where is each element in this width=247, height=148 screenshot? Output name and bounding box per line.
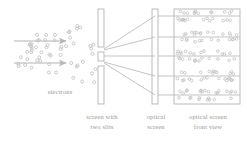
fringe-dot <box>203 76 206 79</box>
electron-dot <box>26 50 29 53</box>
fringe-dot <box>208 19 211 22</box>
electron-dot <box>65 45 68 48</box>
fringe-dot <box>183 12 186 15</box>
fringe-dot <box>189 52 192 55</box>
fringe-dot <box>198 60 201 63</box>
electron-dot <box>92 43 95 46</box>
fringe-dot <box>182 92 185 95</box>
electron-dot <box>81 60 84 63</box>
fringe-dot <box>210 38 213 41</box>
fringe-dot <box>184 50 187 53</box>
fringe-dot <box>190 31 193 34</box>
fringe-dot <box>212 31 215 34</box>
ray-5 <box>104 63 155 95</box>
fringe-dot <box>186 18 189 21</box>
fringe-dot <box>206 17 209 20</box>
fringe-dot <box>207 90 210 93</box>
fringe-dot <box>228 59 231 62</box>
electron-dot <box>91 72 94 75</box>
interference-fringes <box>174 10 240 102</box>
front-view-panel-border <box>174 9 240 104</box>
electron-dot <box>72 42 75 45</box>
electron-dot <box>36 59 39 62</box>
electron-dot <box>93 81 96 84</box>
electron-dot <box>30 66 33 69</box>
electron-dot <box>81 80 84 83</box>
fringe-dot <box>186 12 189 15</box>
fringe-dot <box>188 78 191 81</box>
fringe-dot <box>217 39 220 42</box>
ray-1 <box>104 16 155 49</box>
fringe-dot <box>181 58 184 61</box>
fringe-dot <box>218 77 221 80</box>
label-optical-screen-line1: optical <box>132 113 180 121</box>
electron-dot <box>19 56 22 59</box>
label-slit-screen-line1: screen with <box>74 113 130 121</box>
fringe-dot <box>222 33 225 36</box>
electron-dot <box>89 45 92 48</box>
fringe-dot <box>226 90 229 93</box>
slit-screen-segment-2 <box>98 52 104 61</box>
label-electrons: electrons <box>32 88 88 96</box>
optical-screen-bar <box>152 9 158 104</box>
electron-dot <box>72 76 75 79</box>
electron-dot <box>24 64 27 67</box>
fringe-dot <box>208 57 211 60</box>
label-slit-screen-line2: two slits <box>74 123 130 131</box>
front-view-panel <box>174 9 240 104</box>
electron-dot <box>59 54 62 57</box>
fringe-dot <box>200 51 203 54</box>
electron-dot <box>35 46 38 49</box>
fringe-dot <box>193 53 196 56</box>
fringe-dot <box>234 91 237 94</box>
fringe-dot <box>183 71 186 74</box>
fringe-dot <box>188 58 191 61</box>
electron-dot <box>54 34 57 37</box>
diffracted-rays <box>104 16 155 95</box>
fringe-dot <box>179 10 182 13</box>
fringe-dot <box>200 79 203 82</box>
fringe-dot <box>229 19 232 22</box>
fringe-dot <box>202 18 205 21</box>
fringe-dot <box>213 98 216 101</box>
electron-dot <box>30 51 33 54</box>
ray-4 <box>104 62 155 76</box>
electron-cloud-dots <box>17 24 97 83</box>
slit-screen <box>98 9 104 104</box>
fringe-dot <box>228 38 231 41</box>
fringe-dot <box>223 11 226 14</box>
fringe-dot <box>197 12 200 15</box>
slit-screen-segment-1 <box>98 9 104 47</box>
fringe-dot <box>201 57 204 60</box>
electron-dot <box>70 62 73 65</box>
electron-dot <box>47 71 50 74</box>
electron-dot <box>26 58 29 61</box>
fringe-dot <box>181 38 184 41</box>
electron-dot <box>69 36 72 39</box>
fringe-dot <box>199 71 202 74</box>
fringe-dot <box>235 38 238 41</box>
fringe-dot <box>226 19 229 22</box>
fringe-dot <box>194 40 197 43</box>
fringe-dot <box>217 50 220 53</box>
fringe-dot <box>206 31 209 34</box>
fringe-dot <box>208 70 211 73</box>
fringe-dot <box>229 52 232 55</box>
fringe-dot <box>203 50 206 53</box>
electron-dot <box>91 52 94 55</box>
fringe-dot <box>212 17 215 20</box>
electron-dot <box>40 51 43 54</box>
electron-dot <box>36 33 39 36</box>
fringe-dot <box>176 77 179 80</box>
electron-dot <box>45 34 48 37</box>
electron-dot <box>38 56 41 59</box>
electron-dot <box>39 60 42 63</box>
electron-dot <box>94 68 97 71</box>
label-optical-screen-line2: screen <box>132 123 180 131</box>
fringe-dot <box>204 89 207 92</box>
fringe-dot <box>233 58 236 61</box>
fringe-dot <box>235 34 238 37</box>
electron-dot <box>79 26 82 29</box>
ray-2 <box>104 37 155 50</box>
label-front-view-line2: front view <box>176 123 240 131</box>
